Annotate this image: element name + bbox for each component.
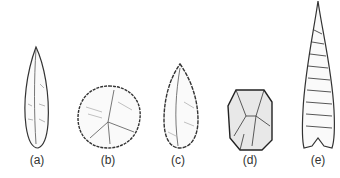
core-drawing: [226, 86, 276, 152]
label-d: (d): [235, 153, 265, 167]
label-a: (a): [22, 153, 52, 167]
spear-point-drawing: [296, 0, 340, 152]
point-drawing: [160, 62, 202, 152]
scraper-drawing: [74, 82, 144, 152]
blade-drawing: [20, 44, 56, 152]
label-c: (c): [163, 153, 193, 167]
stone-tools-figure: (a) (b) (c) (d) (e): [0, 0, 340, 178]
label-b: (b): [93, 153, 123, 167]
label-e: (e): [303, 153, 333, 167]
